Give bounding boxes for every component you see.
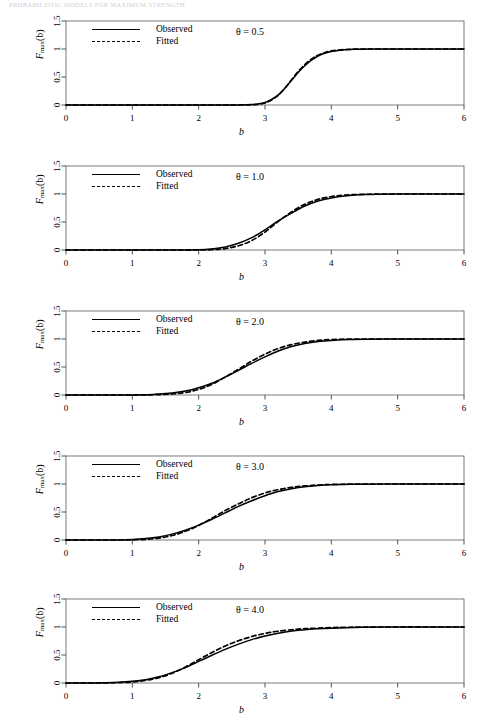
legend-key-solid xyxy=(92,464,140,467)
y-tick-label: 1.5 xyxy=(52,15,62,27)
legend-label: Fitted xyxy=(156,35,178,47)
legend: ObservedFitted xyxy=(92,459,242,483)
y-axis-label-argument: (b) xyxy=(34,319,45,331)
legend-key-dashed xyxy=(92,41,140,44)
x-axis-label: b xyxy=(0,704,483,715)
y-tick-label: 1 xyxy=(52,192,62,197)
x-tick-label: 4 xyxy=(329,113,334,123)
y-tick-label: 0.5 xyxy=(52,361,62,373)
legend-key-solid xyxy=(92,174,140,177)
y-axis-label: Fmax(b) xyxy=(34,14,47,74)
x-tick-label: 5 xyxy=(395,548,400,558)
y-tick-label: 1.5 xyxy=(52,450,62,462)
y-tick-label: 0 xyxy=(52,392,62,397)
legend: ObservedFitted xyxy=(92,314,242,338)
x-tick-label: 0 xyxy=(64,691,69,701)
y-axis-label-symbol: F xyxy=(34,343,45,349)
x-tick-label: 3 xyxy=(263,403,268,413)
legend-item: Fitted xyxy=(92,181,242,193)
x-tick-label: 2 xyxy=(196,691,201,701)
x-tick-label: 2 xyxy=(196,113,201,123)
x-tick-label: 4 xyxy=(329,403,334,413)
series-line-fitted xyxy=(66,339,464,395)
x-tick-label: 1 xyxy=(130,113,135,123)
legend-item: Fitted xyxy=(92,614,242,626)
legend: ObservedFitted xyxy=(92,169,242,193)
y-axis-label-symbol: F xyxy=(34,198,45,204)
legend-label: Observed xyxy=(156,23,192,35)
x-tick-label: 5 xyxy=(395,403,400,413)
y-tick-label: 1.5 xyxy=(52,593,62,605)
y-tick-label: 1 xyxy=(52,482,62,487)
legend-label: Observed xyxy=(156,313,192,325)
legend-key-solid xyxy=(92,607,140,610)
legend-label: Observed xyxy=(156,168,192,180)
y-axis-label: Fmax(b) xyxy=(34,449,47,509)
x-tick-label: 0 xyxy=(64,113,69,123)
series-line-observed xyxy=(66,194,464,250)
chart-panel-2: 00.511.50123456Fmax(b)bθ = 1.0ObservedFi… xyxy=(0,145,483,290)
legend: ObservedFitted xyxy=(92,24,242,48)
y-axis-label: Fmax(b) xyxy=(34,159,47,219)
legend-item: Fitted xyxy=(92,36,242,48)
plot-area: 00.511.50123456 xyxy=(0,578,483,723)
x-axis-label: b xyxy=(0,126,483,137)
y-tick-label: 1 xyxy=(52,625,62,630)
x-tick-label: 5 xyxy=(395,691,400,701)
y-axis-label-subscript: max xyxy=(38,331,46,343)
y-tick-label: 0.5 xyxy=(52,216,62,228)
x-tick-label: 2 xyxy=(196,403,201,413)
y-tick-label: 0.5 xyxy=(52,506,62,518)
x-tick-label: 6 xyxy=(462,403,467,413)
series-line-observed xyxy=(66,627,464,683)
x-tick-label: 5 xyxy=(395,113,400,123)
legend-label: Observed xyxy=(156,601,192,613)
legend-item: Fitted xyxy=(92,471,242,483)
y-tick-label: 1.5 xyxy=(52,160,62,172)
x-tick-label: 1 xyxy=(130,691,135,701)
series-line-fitted xyxy=(66,194,464,250)
legend-label: Fitted xyxy=(156,470,178,482)
plot-area: 00.511.50123456 xyxy=(0,145,483,290)
y-axis-label-symbol: F xyxy=(34,631,45,637)
y-axis-label-subscript: max xyxy=(38,41,46,53)
x-tick-label: 3 xyxy=(263,548,268,558)
x-tick-label: 0 xyxy=(64,403,69,413)
y-tick-label: 1.5 xyxy=(52,305,62,317)
chart-panel-5: 00.511.50123456Fmax(b)bθ = 4.0ObservedFi… xyxy=(0,578,483,723)
x-tick-label: 5 xyxy=(395,258,400,268)
series-line-fitted xyxy=(66,484,464,540)
plot-area: 00.511.50123456 xyxy=(0,0,483,145)
legend-item: Fitted xyxy=(92,326,242,338)
x-tick-label: 6 xyxy=(462,113,467,123)
y-tick-label: 1 xyxy=(52,47,62,52)
y-axis-label-argument: (b) xyxy=(34,29,45,41)
y-tick-label: 0.5 xyxy=(52,649,62,661)
series-line-observed xyxy=(66,49,464,105)
y-axis-label-subscript: max xyxy=(38,186,46,198)
x-tick-label: 0 xyxy=(64,258,69,268)
series-line-fitted xyxy=(66,49,464,105)
legend-label: Fitted xyxy=(156,613,178,625)
x-tick-label: 4 xyxy=(329,258,334,268)
x-tick-label: 3 xyxy=(263,691,268,701)
y-tick-label: 1 xyxy=(52,337,62,342)
x-tick-label: 1 xyxy=(130,548,135,558)
x-tick-label: 4 xyxy=(329,691,334,701)
y-axis-label-subscript: max xyxy=(38,476,46,488)
y-tick-label: 0.5 xyxy=(52,71,62,83)
plot-area: 00.511.50123456 xyxy=(0,435,483,580)
series-line-observed xyxy=(66,339,464,395)
x-tick-label: 1 xyxy=(130,258,135,268)
x-tick-label: 3 xyxy=(263,258,268,268)
x-tick-label: 3 xyxy=(263,113,268,123)
y-tick-label: 0 xyxy=(52,680,62,685)
x-axis-label: b xyxy=(0,561,483,572)
x-tick-label: 1 xyxy=(130,403,135,413)
chart-panel-3: 00.511.50123456Fmax(b)bθ = 2.0ObservedFi… xyxy=(0,290,483,435)
y-tick-label: 0 xyxy=(52,102,62,107)
x-tick-label: 6 xyxy=(462,691,467,701)
y-axis-label-argument: (b) xyxy=(34,607,45,619)
x-tick-label: 2 xyxy=(196,258,201,268)
y-axis-label-argument: (b) xyxy=(34,174,45,186)
